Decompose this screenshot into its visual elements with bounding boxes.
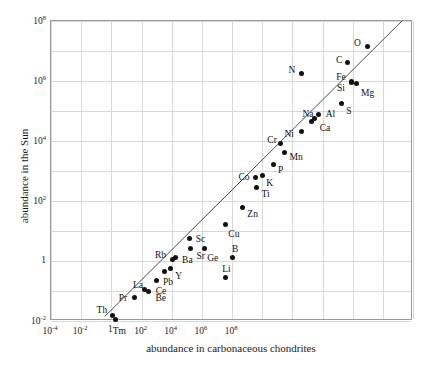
point-label: Tm [113, 327, 126, 337]
y-tick-label: 104 [33, 134, 46, 146]
point-label: Fe [336, 73, 346, 83]
y-axis-title: abundance in the Sun [18, 66, 30, 286]
point-label: Si [337, 84, 345, 94]
point-label: P [278, 166, 283, 176]
point-label: Li [222, 265, 230, 275]
point-label: K [266, 179, 273, 189]
point-label: Co [238, 173, 249, 183]
y-tick-label: 102 [33, 194, 46, 206]
point-label: Al [326, 110, 336, 120]
point-label: Mg [361, 89, 374, 99]
y-tick-label: 1 [41, 255, 46, 265]
x-tick-label: 1 [108, 324, 113, 334]
point-label: Sc [196, 235, 206, 245]
point-label: Ti [262, 190, 270, 200]
point-label: Zn [247, 210, 258, 220]
point-label: Be [155, 294, 166, 304]
point-label: Pr [119, 294, 127, 304]
point-label: B [232, 245, 238, 255]
x-tick-label: 108 [225, 324, 238, 336]
y-tick-label: 108 [33, 14, 46, 26]
x-tick-label: 10-2 [73, 324, 88, 336]
x-axis-title: abundance in carbonaceous chondrites [50, 342, 412, 354]
point-label: Th [97, 306, 108, 316]
y-tick-label: 10-2 [31, 314, 46, 326]
gridline-horizontal [51, 321, 411, 322]
point-label: Cr [267, 136, 277, 146]
point-label: La [133, 281, 143, 291]
x-tick-label: 104 [164, 324, 177, 336]
point-label: Ca [320, 124, 331, 134]
point-label: Ba [182, 256, 193, 266]
point-label: Na [302, 110, 313, 120]
point-label: Y [175, 272, 182, 282]
point-label: O [354, 39, 361, 49]
x-tick-label: 106 [194, 324, 207, 336]
point-labels-layer: OCNFeSiMgSNaAlCaNiCrMnPKCoTiZnCuGeScSrBR… [51, 21, 413, 321]
point-label: Cu [228, 230, 239, 240]
point-label: Rb [155, 251, 166, 261]
point-label: Mn [290, 153, 303, 163]
point-label: Ni [284, 130, 294, 140]
y-tick-label: 106 [33, 74, 46, 86]
point-label: C [336, 56, 342, 66]
point-label: Ge [207, 254, 218, 264]
chart-root: OCNFeSiMgSNaAlCaNiCrMnPKCoTiZnCuGeScSrBR… [0, 0, 430, 366]
point-label: N [288, 66, 295, 76]
point-label: Sr [196, 252, 204, 262]
gridline-vertical [413, 21, 414, 319]
x-tick-label: 102 [134, 324, 147, 336]
point-label: S [346, 107, 351, 117]
plot-area: OCNFeSiMgSNaAlCaNiCrMnPKCoTiZnCuGeScSrBR… [50, 20, 412, 320]
